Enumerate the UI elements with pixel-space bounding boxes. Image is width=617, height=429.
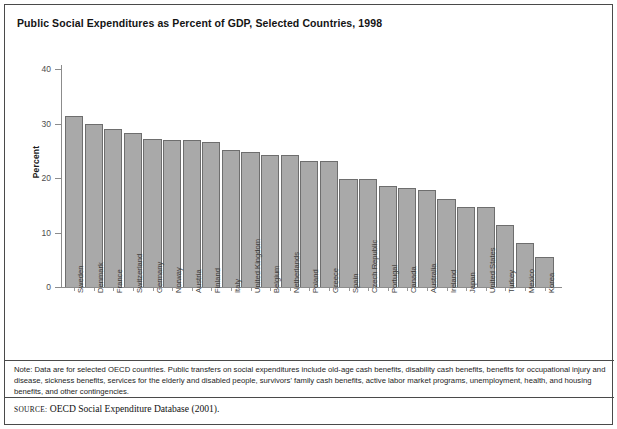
x-axis-category-label: United States bbox=[489, 247, 497, 293]
x-axis-category-label: Norway bbox=[175, 267, 183, 293]
x-axis-tick bbox=[94, 288, 95, 291]
bar bbox=[104, 129, 122, 287]
x-axis-category-label: Switzerland bbox=[136, 254, 144, 293]
x-axis-tick bbox=[172, 288, 173, 291]
x-axis-category-label: Greece bbox=[332, 268, 340, 293]
x-axis-category-label: Belgium bbox=[273, 266, 281, 293]
x-axis-tick bbox=[290, 288, 291, 291]
y-axis-tick bbox=[55, 124, 62, 125]
x-axis-tick bbox=[486, 288, 487, 291]
x-axis-tick bbox=[231, 288, 232, 291]
figure-frame: Public Social Expenditures as Percent of… bbox=[4, 4, 613, 425]
x-axis-category-label: Korea bbox=[548, 273, 556, 293]
x-axis-tick bbox=[427, 288, 428, 291]
x-axis-tick bbox=[211, 288, 212, 291]
x-axis-category-label: Spain bbox=[352, 274, 360, 293]
x-axis-tick bbox=[525, 288, 526, 291]
y-axis-tick-label: 20 bbox=[17, 174, 51, 183]
x-axis-category-label: Australia bbox=[430, 263, 438, 293]
x-axis-tick bbox=[153, 288, 154, 291]
bar bbox=[339, 179, 357, 287]
source-text: OECD Social Expenditure Database (2001). bbox=[50, 403, 220, 414]
x-axis-tick bbox=[368, 288, 369, 291]
y-axis-title: Percent bbox=[31, 127, 41, 197]
x-axis-tick bbox=[192, 288, 193, 291]
x-axis-tick bbox=[113, 288, 114, 291]
x-axis-category-label: France bbox=[116, 269, 124, 293]
bar bbox=[202, 142, 220, 287]
x-axis-tick bbox=[388, 288, 389, 291]
y-axis-tick bbox=[55, 69, 62, 70]
x-axis-category-label: Japan bbox=[469, 272, 477, 293]
bar bbox=[300, 161, 318, 287]
x-axis-category-label: Italy bbox=[234, 279, 242, 293]
bar bbox=[222, 150, 240, 287]
x-axis-tick bbox=[270, 288, 271, 291]
x-axis-category-label: Sweden bbox=[77, 266, 85, 293]
x-axis-tick bbox=[505, 288, 506, 291]
y-axis-line bbox=[61, 65, 62, 288]
y-axis-tick bbox=[55, 287, 62, 288]
x-axis-tick bbox=[447, 288, 448, 291]
x-axis-category-label: Mexico bbox=[528, 269, 536, 293]
x-axis-tick bbox=[407, 288, 408, 291]
x-axis-category-label: Ireland bbox=[450, 270, 458, 293]
figure-source: SOURCE: OECD Social Expenditure Database… bbox=[14, 403, 219, 414]
x-axis-tick bbox=[545, 288, 546, 291]
x-axis-tick bbox=[349, 288, 350, 291]
x-axis-category-label: Portugal bbox=[391, 265, 399, 293]
x-axis-tick bbox=[74, 288, 75, 291]
bar bbox=[163, 140, 181, 287]
y-axis-tick-label: 10 bbox=[17, 229, 51, 238]
x-axis-category-label: Czech Republic bbox=[371, 240, 379, 293]
source-kicker: SOURCE: bbox=[14, 405, 47, 414]
y-axis-tick bbox=[55, 233, 62, 234]
bar bbox=[65, 116, 83, 287]
x-axis-category-label: United Kingdom bbox=[254, 239, 262, 293]
x-axis-category-label: Finland bbox=[214, 268, 222, 293]
y-axis-tick-label: 0 bbox=[17, 283, 51, 292]
x-axis-category-label: Austria bbox=[195, 269, 203, 293]
y-axis-tick-label: 30 bbox=[17, 120, 51, 129]
x-axis-category-label: Germany bbox=[156, 262, 164, 293]
y-axis-tick-label: 40 bbox=[17, 65, 51, 74]
y-axis-tick bbox=[55, 178, 62, 179]
x-axis-tick bbox=[466, 288, 467, 291]
bar bbox=[183, 140, 201, 287]
x-axis-tick bbox=[329, 288, 330, 291]
x-axis-category-label: Denmark bbox=[97, 262, 105, 293]
x-axis-tick bbox=[251, 288, 252, 291]
figure-note: Note: Data are for selected OECD countri… bbox=[14, 365, 606, 398]
x-axis-category-label: Canada bbox=[410, 266, 418, 293]
source-divider bbox=[5, 397, 614, 398]
x-axis-tick bbox=[309, 288, 310, 291]
chart-plot: Percent 010203040 SwedenDenmarkFranceSwi… bbox=[5, 5, 614, 365]
footer-divider bbox=[5, 360, 614, 361]
x-axis-category-label: Netherlands bbox=[293, 252, 301, 293]
x-axis-tick bbox=[133, 288, 134, 291]
x-axis-category-label: Turkey bbox=[508, 270, 516, 293]
x-axis-category-label: Poland bbox=[312, 269, 320, 293]
